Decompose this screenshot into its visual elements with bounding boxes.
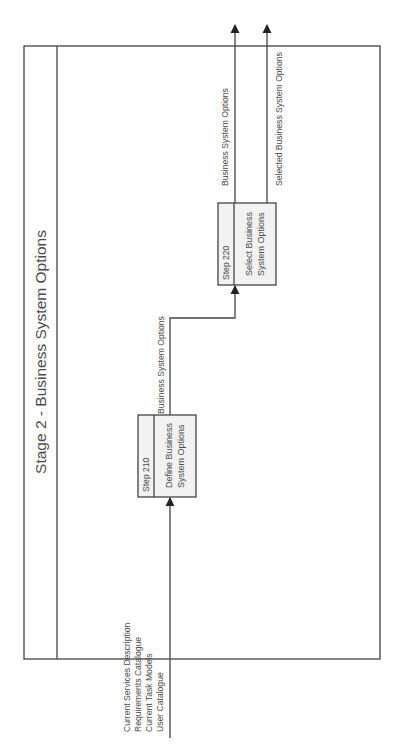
output-label-business-system-options: Business System Options: [220, 88, 230, 186]
input-label: Current Task Models: [144, 653, 154, 732]
step-210-box[interactable]: Step 210 Define Business System Options: [138, 415, 196, 497]
step-220-name-line2: System Options: [256, 212, 266, 276]
flow-step210-to-step220: [170, 286, 235, 415]
input-label: Current Services Description: [122, 622, 132, 732]
flow-label-step210-to-step220: Business System Options: [156, 316, 166, 414]
stage-frame: [24, 46, 380, 659]
step-220-name-line1: Select Business: [244, 211, 254, 276]
stage-title: Stage 2 - Business System Options: [32, 230, 49, 474]
step-220-number: Step 220: [221, 245, 231, 280]
step-210-number: Step 210: [141, 457, 151, 492]
input-label: Requirements Catalogue: [133, 637, 143, 732]
step-210-name-line1: Define Business: [164, 422, 174, 488]
step-210-name-line2: System Options: [176, 424, 186, 488]
output-label-selected-business-system-options: Selected Business System Options: [274, 52, 284, 186]
step-220-box[interactable]: Step 220 Select Business System Options: [218, 203, 276, 285]
diagram-canvas: Stage 2 - Business System Options Curren…: [0, 0, 398, 749]
input-labels: Current Services Description Requirement…: [122, 622, 165, 732]
input-label: User Catalogue: [155, 672, 165, 732]
